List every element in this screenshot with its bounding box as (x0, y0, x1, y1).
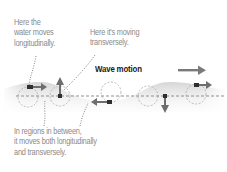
annotation-between: In regions in between, it moves both lon… (14, 126, 97, 157)
leader-longitudinal (29, 56, 36, 86)
annotation-transverse: Here it's moving transversely. (90, 27, 139, 48)
leader-transverse (64, 55, 95, 90)
wave-motion-title: Wave motion (95, 63, 142, 74)
annotation-line: longitudinally. (14, 38, 55, 48)
annotation-line: transversely. (90, 37, 139, 47)
annotation-line: and transversely. (14, 147, 97, 157)
annotation-line: Here it's moving (90, 27, 139, 37)
annotation-line: water moves (14, 27, 55, 37)
wave-motion-arrow (178, 66, 206, 76)
annotation-line: it moves both longitudinally (14, 136, 97, 146)
annotation-line: Here the (14, 17, 55, 27)
annotation-line: In regions in between, (14, 126, 97, 136)
annotation-longitudinal: Here the water moves longitudinally. (14, 17, 55, 48)
